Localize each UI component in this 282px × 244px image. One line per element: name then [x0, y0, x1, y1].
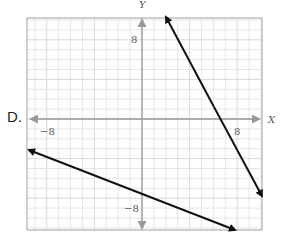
line-shallow: [29, 150, 132, 190]
coordinate-plane: Y X −8 8 8 −8: [0, 0, 282, 244]
x-axis-label: X: [267, 114, 276, 125]
y-tick-8: 8: [131, 34, 137, 45]
grid: [27, 18, 262, 230]
line-steep: [214, 107, 262, 196]
y-tick-neg8: −8: [124, 203, 139, 214]
line-shallow: [132, 190, 235, 230]
y-axis-label: Y: [139, 0, 147, 10]
x-tick-neg8: −8: [40, 126, 55, 137]
x-tick-8: 8: [234, 126, 240, 137]
